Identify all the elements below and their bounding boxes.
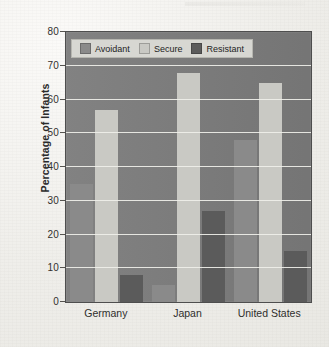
legend-label-resistant: Resistant xyxy=(206,44,244,54)
y-tick-label-50: 50 xyxy=(19,127,59,138)
gridline-40 xyxy=(66,166,311,167)
scan-artifact xyxy=(185,2,305,6)
y-tick-mark-60 xyxy=(60,99,65,100)
y-tick-mark-10 xyxy=(60,267,65,268)
bar-germany-resistant xyxy=(120,275,143,302)
bar-japan-resistant xyxy=(202,211,225,302)
legend-item-secure: Secure xyxy=(139,43,183,54)
y-tick-mark-80 xyxy=(60,31,65,32)
legend-label-secure: Secure xyxy=(154,44,183,54)
y-tick-label-80: 80 xyxy=(19,26,59,37)
y-tick-mark-50 xyxy=(60,132,65,133)
y-tick-mark-20 xyxy=(60,234,65,235)
y-tick-mark-30 xyxy=(60,200,65,201)
y-tick-label-40: 40 xyxy=(19,161,59,172)
y-tick-label-60: 60 xyxy=(19,93,59,104)
gridline-80 xyxy=(66,31,311,32)
x-tick-label-japan: Japan xyxy=(173,307,202,319)
bar-united-states-resistant xyxy=(284,251,307,302)
gridline-50 xyxy=(66,132,311,133)
y-tick-mark-40 xyxy=(60,166,65,167)
legend-swatch-secure-icon xyxy=(139,43,150,54)
legend-label-avoidant: Avoidant xyxy=(95,44,130,54)
y-tick-label-70: 70 xyxy=(19,59,59,70)
y-tick-label-0: 0 xyxy=(19,296,59,307)
bar-chart-figure: Percentage of Infants 01020304050607080 … xyxy=(8,14,321,336)
chart-legend: AvoidantSecureResistant xyxy=(71,39,253,58)
x-tick-label-germany: Germany xyxy=(84,307,127,319)
bar-germany-secure xyxy=(95,110,118,302)
legend-swatch-avoidant-icon xyxy=(80,43,91,54)
gridline-20 xyxy=(66,234,311,235)
bar-united-states-avoidant xyxy=(234,140,257,302)
y-tick-label-30: 30 xyxy=(19,194,59,205)
gridline-60 xyxy=(66,99,311,100)
y-tick-mark-70 xyxy=(60,65,65,66)
bar-japan-avoidant xyxy=(152,285,175,302)
y-tick-mark-0 xyxy=(60,301,65,302)
gridline-70 xyxy=(66,65,311,66)
x-tick-label-united-states: United States xyxy=(238,307,301,319)
bar-germany-avoidant xyxy=(70,184,93,302)
legend-item-avoidant: Avoidant xyxy=(80,43,130,54)
y-tick-label-10: 10 xyxy=(19,262,59,273)
y-axis-title: Percentage of Infants xyxy=(39,68,51,208)
plot-area xyxy=(65,31,312,303)
bar-united-states-secure xyxy=(259,83,282,302)
y-tick-label-20: 20 xyxy=(19,228,59,239)
gridline-30 xyxy=(66,200,311,201)
gridline-10 xyxy=(66,267,311,268)
legend-item-resistant: Resistant xyxy=(191,43,244,54)
legend-swatch-resistant-icon xyxy=(191,43,202,54)
